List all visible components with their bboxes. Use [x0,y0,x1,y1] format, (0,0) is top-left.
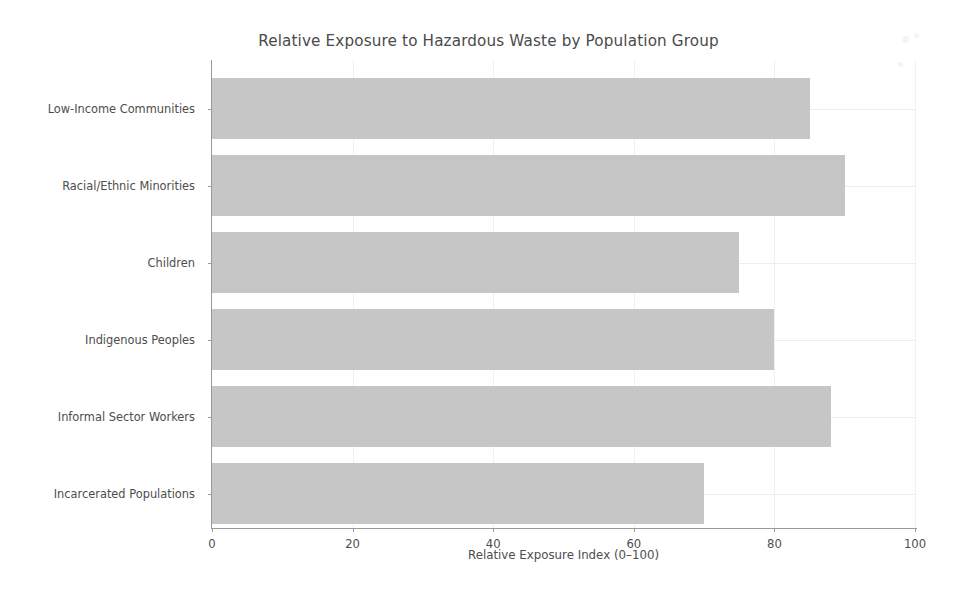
y-axis-tick-label: Incarcerated Populations [0,487,195,501]
x-axis-tick-mark [353,528,354,532]
x-axis-label: Relative Exposure Index (0–100) [212,548,915,562]
chart-figure: Relative Exposure to Hazardous Waste by … [0,0,977,591]
y-axis-tick-mark [208,340,212,341]
scan-artifact [898,62,903,67]
y-axis-tick-label: Indigenous Peoples [0,333,195,347]
x-axis-tick-mark [212,528,213,532]
x-axis-tick-mark [634,528,635,532]
y-axis-tick-mark [208,494,212,495]
bar [212,155,845,216]
scan-artifact [914,33,919,38]
x-axis-spine [211,528,917,529]
y-axis-tick-mark [208,186,212,187]
bar [212,78,810,139]
bar [212,386,831,447]
y-axis-tick-label: Informal Sector Workers [0,410,195,424]
y-axis-tick-mark [208,263,212,264]
x-axis-tick-mark [774,528,775,532]
bar [212,232,739,293]
scan-artifact [902,36,909,43]
chart-title: Relative Exposure to Hazardous Waste by … [0,32,977,50]
bar [212,309,774,370]
y-axis-tick-mark [208,109,212,110]
gridline-vertical [915,60,916,528]
y-axis-tick-label: Low-Income Communities [0,102,195,116]
bar [212,463,704,524]
x-axis-tick-mark [493,528,494,532]
y-axis-tick-mark [208,417,212,418]
y-axis-tick-label: Racial/Ethnic Minorities [0,179,195,193]
x-axis-tick-mark [915,528,916,532]
plot-area: Low-Income CommunitiesRacial/Ethnic Mino… [212,66,915,528]
y-axis-tick-label: Children [0,256,195,270]
